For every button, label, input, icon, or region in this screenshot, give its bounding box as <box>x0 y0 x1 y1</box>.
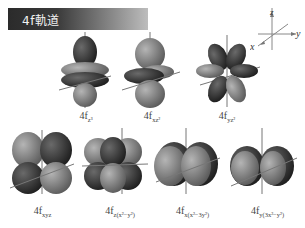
y-axis-label: y <box>295 28 301 39</box>
label-4fz3: 4fz³ <box>66 110 106 123</box>
orbital-4fz-x2-y2-diagram <box>80 128 148 198</box>
orbital-4fxz2-diagram <box>120 30 185 110</box>
label-4fz-x2-y2: 4fz(x²−y²) <box>90 205 150 218</box>
label-4fy-3x2-y2: 4fy(3x²−y²) <box>235 205 300 218</box>
label-4fyz2: 4fyz² <box>207 110 247 123</box>
title-banner: 4f軌道 <box>8 8 148 30</box>
orbital-4fx-x2-3y2-diagram <box>148 128 223 198</box>
orbital-4fz3-diagram <box>55 30 115 110</box>
page-title: 4f軌道 <box>22 11 60 28</box>
label-4fxyz: 4fxyz <box>20 205 65 218</box>
z-axis-label: z <box>269 7 274 17</box>
orbital-4fxyz-diagram <box>8 128 76 198</box>
label-4fx-x2-3y2: 4fx(x²−3y²) <box>160 205 225 218</box>
label-4fxz2: 4fxz² <box>132 110 172 123</box>
orbital-4fyz2-diagram <box>190 35 265 110</box>
orbital-4fy-3x2-y2-diagram <box>223 128 301 198</box>
